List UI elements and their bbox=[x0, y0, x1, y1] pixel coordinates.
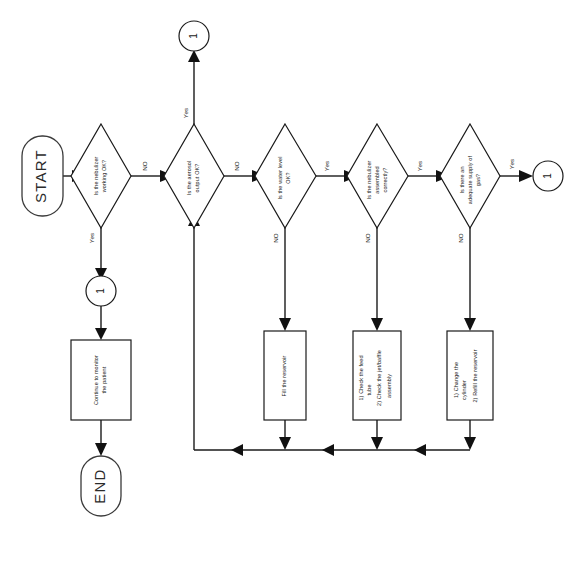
terminal-start: START bbox=[22, 136, 63, 216]
d1-yes-label: Yes bbox=[88, 233, 95, 244]
arrow-d5-no bbox=[464, 318, 476, 331]
decision-gas-supply[interactable]: Is there an adequate supply of gas? Yes … bbox=[440, 124, 515, 243]
d1-no-label: NO bbox=[141, 161, 148, 171]
p-gas-line3: 2) Refill the reservoir bbox=[472, 349, 478, 402]
d2-no-label: NO bbox=[233, 161, 240, 171]
connector-left-label: 1 bbox=[95, 288, 106, 294]
d5-line1: Is there an bbox=[459, 166, 465, 193]
d4-line2: assembled bbox=[374, 166, 380, 193]
arrow-fill-to-bus bbox=[279, 437, 291, 450]
terminal-end: END bbox=[81, 456, 121, 516]
flowchart-svg: START Is the nebulizer working OK? NO Ye… bbox=[0, 0, 578, 564]
decision-nebulizer-working[interactable]: Is the nebulizer working OK? NO Yes bbox=[71, 124, 148, 243]
d1-line1: Is the nebulizer bbox=[93, 156, 99, 195]
d3-yes-label: Yes bbox=[323, 161, 330, 172]
d2-line1: Is the aerosol bbox=[186, 161, 192, 195]
p-gas-line1: 1) Change the bbox=[453, 362, 459, 398]
d4-line3: correctly? bbox=[382, 168, 388, 193]
flowchart-canvas: START Is the nebulizer working OK? NO Ye… bbox=[0, 0, 578, 564]
connector-top[interactable]: 1 bbox=[179, 21, 209, 51]
p-check-line2: tube bbox=[366, 384, 372, 395]
d2-yes-label: Yes bbox=[182, 108, 189, 119]
p-check-line4: assembly bbox=[386, 374, 392, 398]
d3-line1: Is the water level bbox=[277, 156, 283, 199]
arrow-d4-no bbox=[371, 318, 383, 331]
connector-right-label: 1 bbox=[542, 173, 553, 179]
decision-water-level[interactable]: Is the water level OK? Yes NO bbox=[255, 124, 330, 243]
arrow-d3-no bbox=[279, 318, 291, 331]
connector-top-label: 1 bbox=[188, 33, 199, 39]
d4-line1: Is the nebulizer bbox=[366, 160, 372, 199]
start-label: START bbox=[32, 149, 49, 203]
d5-line2: adequate supply of bbox=[467, 156, 473, 205]
process-gas-supply-fix[interactable]: 1) Change the cylinder 2) Refill the res… bbox=[447, 331, 493, 420]
end-label: END bbox=[91, 468, 108, 503]
arrow-bus-left-1 bbox=[414, 444, 426, 456]
p-check-line1: 1) Check the feed bbox=[358, 355, 364, 400]
arrow-check-to-bus bbox=[371, 437, 383, 450]
process-check-assembly[interactable]: 1) Check the feed tube 2) Check the jet/… bbox=[353, 331, 401, 420]
d5-line3: gas? bbox=[475, 174, 481, 186]
decision-aerosol-output[interactable]: Is the aerosol output OK? NO Yes bbox=[164, 108, 240, 228]
p-gas-line2: cylinder bbox=[461, 380, 467, 400]
d4-no-label: NO bbox=[364, 233, 371, 243]
d2-line2: output OK? bbox=[194, 164, 200, 193]
p-monitor-line2: the patient bbox=[101, 366, 107, 393]
process-fill-reservoir[interactable]: Fill the reservoir bbox=[264, 331, 306, 420]
decision-nebulizer-assembled[interactable]: Is the nebulizer assembled correctly? Ye… bbox=[347, 124, 423, 243]
process-continue-monitor[interactable]: Continue to monitor the patient bbox=[71, 340, 131, 420]
arrow-d5-yes bbox=[519, 170, 533, 182]
p-fill-line1: Fill the reservoir bbox=[281, 355, 287, 396]
arrow-monitor-to-end bbox=[95, 443, 107, 456]
arrow-bus-left-3 bbox=[231, 444, 243, 456]
arrow-bus-left-2 bbox=[322, 444, 334, 456]
d3-no-label: NO bbox=[272, 233, 279, 243]
connector-left[interactable]: 1 bbox=[86, 276, 116, 306]
arrow-gas-to-bus bbox=[464, 437, 476, 450]
d1-line2: working OK? bbox=[101, 160, 107, 194]
d3-line2: OK? bbox=[285, 172, 291, 183]
p-monitor-line1: Continue to monitor bbox=[93, 355, 99, 405]
d5-yes-label: Yes bbox=[508, 159, 515, 170]
arrow-connector-to-monitor bbox=[95, 328, 107, 340]
p-check-line3: 2) Check the jet/baffle bbox=[376, 350, 382, 406]
d4-yes-label: Yes bbox=[416, 161, 423, 172]
arrow-d2-yes bbox=[188, 50, 200, 62]
connector-right[interactable]: 1 bbox=[533, 161, 563, 191]
d5-no-label: NO bbox=[457, 233, 464, 243]
